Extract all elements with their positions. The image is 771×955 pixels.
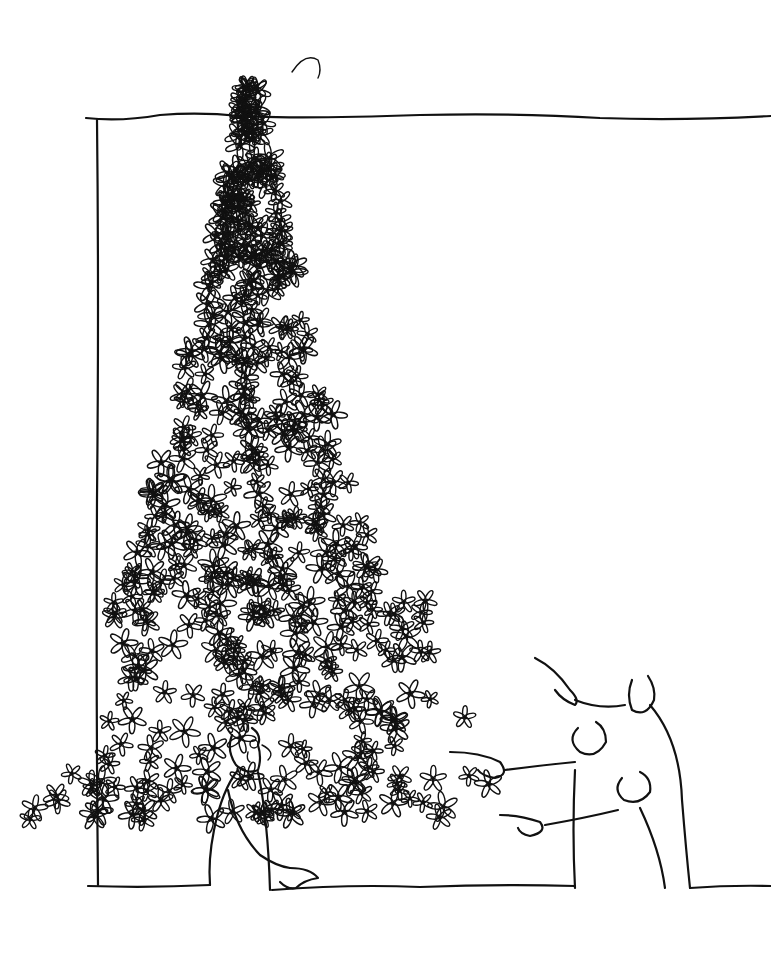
cartoon-canvas: [0, 0, 771, 955]
flower-tree: [19, 58, 502, 834]
illustration: [0, 0, 771, 955]
onlooker-tall: [535, 658, 690, 888]
onlooker-middle: [450, 722, 606, 888]
onlooker-short: [500, 772, 665, 888]
